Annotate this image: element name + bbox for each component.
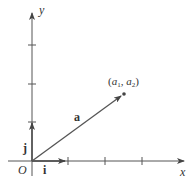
endpoint-coordinates-label: (a1, a2) <box>108 76 139 89</box>
vector-diagram: y x O i j a (a1, a2) <box>0 0 191 179</box>
origin-label: O <box>18 164 27 176</box>
unit-vector-i-label: i <box>43 164 46 176</box>
diagram-graphics <box>0 0 191 179</box>
vector-a-label: a <box>74 111 80 123</box>
endpoint-dot <box>122 92 126 96</box>
y-axis-label: y <box>39 4 44 16</box>
unit-vector-j-label: j <box>23 142 27 154</box>
x-axis-label: x <box>180 166 185 178</box>
paren-close: ) <box>135 75 139 87</box>
vector-a <box>32 96 121 161</box>
